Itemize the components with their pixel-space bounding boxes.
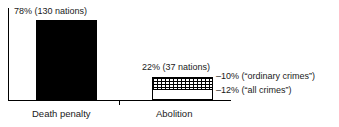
x-axis-tick xyxy=(119,100,120,105)
abolition-value-label: 22% (37 nations) xyxy=(142,62,210,73)
bar-death-penalty xyxy=(36,20,97,100)
x-axis-label-death-penalty: Death penalty xyxy=(32,108,91,119)
y-axis-line xyxy=(8,8,9,100)
bar-chart: 78% (130 nations) 22% (37 nations) –10% … xyxy=(0,0,339,127)
annotation-all-crimes: –12% (“all crimes”) xyxy=(216,85,292,96)
bar-segment-ordinary-crimes xyxy=(153,78,212,89)
annotation-ordinary-crimes: –10% (“ordinary crimes”) xyxy=(216,71,315,82)
x-axis-label-abolition: Abolition xyxy=(156,108,192,119)
bar-abolition xyxy=(152,77,213,100)
bar-segment-divider xyxy=(153,89,212,90)
death-penalty-value-label: 78% (130 nations) xyxy=(14,6,87,17)
